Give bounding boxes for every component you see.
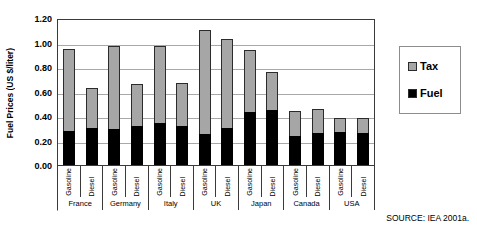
bar-slot <box>216 20 239 165</box>
bar-slot <box>239 20 262 165</box>
y-axis-tick-label: 1.00 <box>34 39 52 48</box>
y-axis-tick-label: 0.00 <box>34 162 52 171</box>
bar-slot <box>193 20 216 165</box>
legend-item[interactable]: Tax <box>408 61 460 72</box>
bar-slot <box>284 20 307 165</box>
bar-segment-tax <box>108 46 120 129</box>
x-axis-country-cell: UK <box>194 197 239 210</box>
bar-segment-tax <box>199 30 211 134</box>
fuel-price-chart-figure: Fuel Prices (US $/liter) 1.201.000.800.6… <box>0 0 477 232</box>
x-axis-country-labels: FranceGermanyItalyUKJapanCanadaUSA <box>57 197 375 211</box>
x-axis-country-label: Germany <box>110 200 141 208</box>
x-axis-fuel-type-label: Gasoline <box>65 168 72 196</box>
x-axis-fuel-type-label: Gasoline <box>246 168 253 196</box>
x-axis-fuel-type-cell: Diesel <box>352 166 375 197</box>
y-axis-tick-label: 0.20 <box>34 137 52 146</box>
stacked-bar[interactable] <box>334 118 346 165</box>
x-axis-fuel-type-label: Diesel <box>360 177 367 196</box>
bar-segment-tax <box>131 84 143 126</box>
bar-segment-fuel <box>154 123 166 165</box>
y-axis-title: Fuel Prices (US $/liter) <box>2 18 18 168</box>
y-axis-title-text: Fuel Prices (US $/liter) <box>5 48 15 138</box>
x-axis-fuel-type-cell: Diesel <box>171 166 194 197</box>
bar-segment-fuel <box>199 134 211 165</box>
y-axis-tick-labels: 1.201.000.800.600.400.200.00 <box>20 14 54 166</box>
x-axis-fuel-type-cell: Diesel <box>216 166 239 197</box>
bar-segment-fuel <box>176 126 188 165</box>
x-axis-fuel-type-labels: GasolineDieselGasolineDieselGasolineDies… <box>57 166 375 197</box>
chart-legend: TaxFuel <box>399 46 461 114</box>
bar-segment-fuel <box>131 126 143 165</box>
bar-segment-fuel <box>334 132 346 165</box>
bar-segment-tax <box>176 83 188 126</box>
stacked-bar[interactable] <box>357 118 369 165</box>
x-axis-fuel-type-label: Diesel <box>88 177 95 196</box>
x-axis-country-cell: USA <box>330 197 375 210</box>
stacked-bar[interactable] <box>266 72 278 165</box>
x-axis-country-label: Japan <box>251 200 271 208</box>
stacked-bar[interactable] <box>289 111 301 165</box>
x-axis-fuel-type-cell: Gasoline <box>58 166 81 197</box>
x-axis-country-cell: Japan <box>239 197 284 210</box>
bar-segment-fuel <box>244 112 256 165</box>
bar-slot <box>329 20 352 165</box>
x-axis-country-label: UK <box>211 200 221 208</box>
x-axis-fuel-type-cell: Diesel <box>81 166 104 197</box>
source-note: SOURCE: IEA 2001a. <box>386 213 469 223</box>
x-axis-fuel-type-label: Diesel <box>269 177 276 196</box>
y-axis-tick-label: 0.60 <box>34 88 52 97</box>
stacked-bar[interactable] <box>244 50 256 165</box>
bar-slot <box>171 20 194 165</box>
x-axis-fuel-type-cell: Diesel <box>262 166 285 197</box>
bar-segment-tax <box>266 72 278 110</box>
x-axis-country-label: Canada <box>293 200 319 208</box>
bar-slot <box>306 20 329 165</box>
x-axis-fuel-type-cell: Gasoline <box>239 166 262 197</box>
x-axis-country-cell: Italy <box>149 197 194 210</box>
x-axis-fuel-type-cell: Gasoline <box>149 166 172 197</box>
bar-segment-tax <box>154 46 166 123</box>
bar-segment-fuel <box>221 128 233 165</box>
bar-segment-fuel <box>63 131 75 165</box>
stacked-bar[interactable] <box>199 30 211 165</box>
bar-slot <box>126 20 149 165</box>
bar-slot <box>103 20 126 165</box>
x-axis-fuel-type-label: Gasoline <box>156 168 163 196</box>
x-axis-fuel-type-cell: Gasoline <box>194 166 217 197</box>
x-axis-fuel-type-label: Diesel <box>133 177 140 196</box>
x-axis-fuel-type-cell: Gasoline <box>284 166 307 197</box>
stacked-bar[interactable] <box>176 83 188 165</box>
x-axis-country-cell: Germany <box>103 197 148 210</box>
stacked-bar[interactable] <box>312 109 324 165</box>
stacked-bar[interactable] <box>108 46 120 165</box>
x-axis-fuel-type-label: Diesel <box>314 177 321 196</box>
x-axis-fuel-type-label: Diesel <box>179 177 186 196</box>
x-axis-fuel-type-label: Diesel <box>224 177 231 196</box>
stacked-bar[interactable] <box>63 49 75 165</box>
bar-slot <box>81 20 104 165</box>
bar-segment-tax <box>244 50 256 112</box>
stacked-bar[interactable] <box>86 88 98 165</box>
stacked-bar[interactable] <box>131 84 143 165</box>
x-axis-fuel-type-cell: Diesel <box>126 166 149 197</box>
y-axis-tick-label: 1.20 <box>34 15 52 24</box>
x-axis-country-label: France <box>68 200 91 208</box>
bar-slot <box>58 20 81 165</box>
x-axis-country-label: Italy <box>164 200 178 208</box>
bar-segment-fuel <box>86 128 98 165</box>
bar-segment-fuel <box>108 129 120 165</box>
stacked-bar[interactable] <box>154 46 166 165</box>
bar-segment-tax <box>334 118 346 131</box>
bar-segment-tax <box>63 49 75 131</box>
legend-label: Fuel <box>420 88 443 99</box>
stacked-bar[interactable] <box>221 39 233 165</box>
x-axis-fuel-type-cell: Gasoline <box>330 166 353 197</box>
x-axis-fuel-type-label: Gasoline <box>292 168 299 196</box>
x-axis-fuel-type-cell: Gasoline <box>103 166 126 197</box>
bar-segment-tax <box>289 111 301 136</box>
x-axis-country-label: USA <box>344 200 359 208</box>
x-axis-fuel-type-cell: Diesel <box>307 166 330 197</box>
x-axis-country-cell: France <box>58 197 103 210</box>
legend-item[interactable]: Fuel <box>408 88 460 99</box>
y-axis-tick-label: 0.80 <box>34 64 52 73</box>
